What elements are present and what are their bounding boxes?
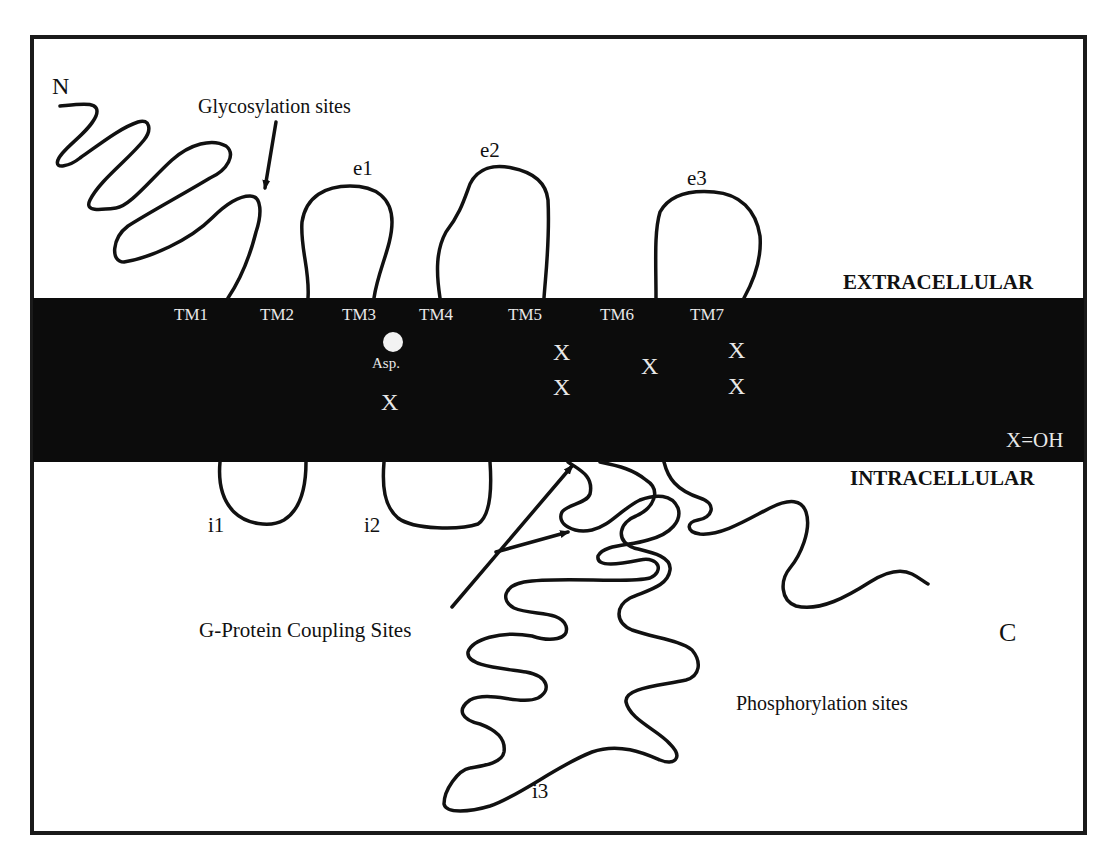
c-terminus-label: C [999,620,1016,646]
hydroxyl-marker-tm3: X [381,390,398,414]
i2-label: i2 [364,515,380,536]
asp-residue-dot [383,332,403,352]
phosphorylation-annotation: Phosphorylation sites [736,693,908,713]
hydroxyl-marker-tm7-b: X [728,374,745,398]
glycosylation-annotation: Glycosylation sites [198,96,351,116]
i3-loop [444,462,698,811]
tm7-label: TM7 [690,306,724,323]
g-protein-annotation: G-Protein Coupling Sites [199,620,411,641]
e1-loop [302,186,392,298]
protein-chain [0,0,1120,867]
i3-label: i3 [532,781,548,802]
intracellular-label: INTRACELLULAR [850,468,1034,489]
i1-loop [220,462,306,524]
hydroxyl-marker-tm5-b: X [553,375,570,399]
glycosylation-arrow [265,122,276,188]
hydroxyl-marker-tm7-a: X [728,338,745,362]
e2-label: e2 [480,140,500,161]
asp-label: Asp. [372,356,400,371]
tm1-label: TM1 [174,306,208,323]
extracellular-label: EXTRACELLULAR [843,272,1033,293]
hydroxyl-marker-tm5-a: X [553,340,570,364]
hydroxyl-marker-tm6: X [641,354,658,378]
tm2-label: TM2 [260,306,294,323]
hydroxyl-legend: X=OH [1006,430,1063,451]
i2-loop [383,462,490,528]
tm4-label: TM4 [419,306,453,323]
i1-label: i1 [208,515,224,536]
e1-label: e1 [353,158,373,179]
e2-loop [438,167,549,298]
n-terminus-label: N [52,74,69,98]
e3-label: e3 [687,168,707,189]
tm6-label: TM6 [600,306,634,323]
tm3-label: TM3 [342,306,376,323]
e3-loop [656,192,761,298]
tm5-label: TM5 [508,306,542,323]
gpcr-diagram: EXTRACELLULAR INTRACELLULAR N C e1 e2 e3… [0,0,1120,867]
n-terminus-chain [57,104,260,298]
